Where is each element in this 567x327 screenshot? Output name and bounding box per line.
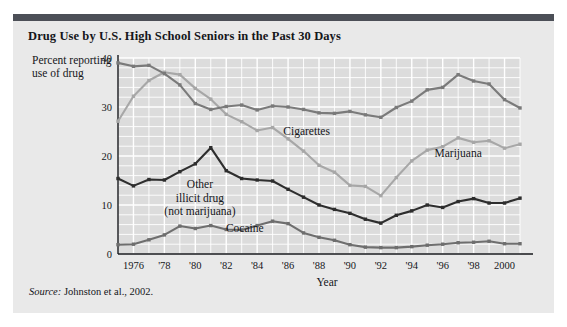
data-point: [395, 246, 398, 249]
data-point: [163, 178, 166, 181]
x-tick-label: '82: [220, 260, 232, 271]
data-point: [348, 212, 351, 215]
data-point: [132, 184, 135, 187]
data-point: [194, 227, 197, 230]
data-point: [364, 185, 367, 188]
data-point: [348, 243, 351, 246]
data-point: [271, 179, 274, 182]
data-point: [379, 221, 382, 224]
data-point: [503, 242, 506, 245]
source-citation: Johnston et al., 2002.: [61, 286, 153, 297]
y-tick-label: 40: [102, 53, 113, 64]
x-tick-label: 2000: [494, 260, 515, 271]
y-tick-label: 30: [102, 102, 113, 113]
data-point: [364, 245, 367, 248]
data-point: [472, 197, 475, 200]
data-point: [302, 108, 305, 111]
data-point: [116, 243, 119, 246]
data-point: [240, 103, 243, 106]
data-point: [163, 72, 166, 75]
data-point: [426, 203, 429, 206]
x-tick-label: '80: [189, 260, 201, 271]
annotation-cocaine: Cocaine: [226, 222, 264, 234]
data-point: [132, 65, 135, 68]
data-point: [147, 64, 150, 67]
data-point: [209, 108, 212, 111]
data-point: [286, 137, 289, 140]
data-point: [410, 159, 413, 162]
data-point: [426, 243, 429, 246]
x-tick-label: '84: [251, 260, 264, 271]
data-point: [379, 116, 382, 119]
data-point: [472, 241, 475, 244]
data-point: [317, 111, 320, 114]
plot-area: 0102030401976'78'80'82'84'86'88'90'92'94…: [13, 14, 554, 313]
data-point: [487, 201, 490, 204]
y-tick-label: 10: [102, 200, 113, 211]
annotation-marijuana: Marijuana: [435, 147, 482, 160]
data-point: [225, 105, 228, 108]
data-point: [348, 110, 351, 113]
data-point: [333, 239, 336, 242]
data-point: [333, 170, 336, 173]
data-point: [333, 112, 336, 115]
data-point: [364, 113, 367, 116]
data-point: [487, 240, 490, 243]
data-point: [209, 146, 212, 149]
data-point: [225, 113, 228, 116]
data-point: [518, 143, 521, 146]
data-point: [132, 95, 135, 98]
data-point: [255, 108, 258, 111]
data-point: [302, 195, 305, 198]
data-point: [194, 87, 197, 90]
data-point: [116, 177, 119, 180]
data-point: [225, 169, 228, 172]
data-point: [178, 83, 181, 86]
data-point: [116, 120, 119, 123]
data-point: [333, 208, 336, 211]
data-point: [518, 106, 521, 109]
data-point: [441, 86, 444, 89]
data-point: [395, 214, 398, 217]
x-tick-label: '96: [436, 260, 448, 271]
x-tick-label: '78: [158, 260, 170, 271]
data-point: [209, 97, 212, 100]
data-point: [116, 61, 119, 64]
data-point: [472, 141, 475, 144]
y-tick-label: 20: [102, 151, 113, 162]
line-chart-svg: 0102030401976'78'80'82'84'86'88'90'92'94…: [13, 14, 554, 313]
data-point: [487, 139, 490, 142]
y-tick-label: 0: [107, 249, 112, 260]
x-tick-label: '88: [313, 260, 325, 271]
data-point: [317, 164, 320, 167]
data-point: [240, 177, 243, 180]
data-point: [487, 82, 490, 85]
x-tick-label: '90: [344, 260, 356, 271]
data-point: [426, 88, 429, 91]
data-point: [456, 200, 459, 203]
data-point: [410, 99, 413, 102]
data-point: [178, 170, 181, 173]
data-point: [178, 73, 181, 76]
x-tick-label: '98: [467, 260, 479, 271]
data-point: [441, 206, 444, 209]
source-note: Source: Johnston et al., 2002.: [29, 286, 153, 297]
figure-panel: Drug Use by U.S. High School Seniors in …: [13, 14, 554, 313]
source-label: Source:: [29, 286, 61, 297]
data-point: [518, 242, 521, 245]
annotation-other-illicit-line: Other: [187, 178, 213, 190]
data-point: [209, 224, 212, 227]
data-point: [147, 238, 150, 241]
data-point: [317, 236, 320, 239]
data-point: [163, 233, 166, 236]
data-point: [302, 231, 305, 234]
data-point: [178, 224, 181, 227]
data-point: [518, 196, 521, 199]
data-point: [271, 219, 274, 222]
data-point: [364, 218, 367, 221]
data-point: [255, 129, 258, 132]
data-point: [503, 201, 506, 204]
data-point: [302, 149, 305, 152]
data-point: [317, 203, 320, 206]
data-point: [240, 120, 243, 123]
